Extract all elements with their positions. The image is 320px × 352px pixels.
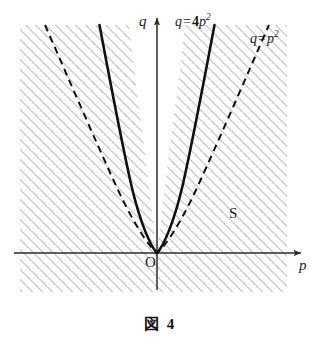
coordinate-plane-diagram [0, 0, 320, 352]
figure-container: q p O q=4p2 q=p2 S 図 4 [0, 0, 320, 352]
q-axis-label: q [139, 14, 147, 29]
figure-caption: 図 4 [0, 312, 320, 333]
p-axis-label: p [299, 258, 307, 273]
origin-label: O [145, 255, 156, 270]
region-s-hatching [20, 25, 287, 292]
curve-label-dashed: q=p2 [250, 30, 279, 46]
region-label-s: S [229, 206, 237, 221]
curve-label-solid: q=4p2 [175, 13, 211, 29]
